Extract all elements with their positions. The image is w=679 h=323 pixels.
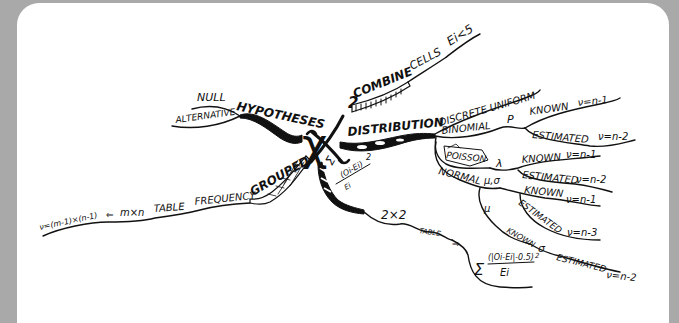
formula-denominator: Ei xyxy=(343,182,353,192)
branch-formula: Σ (Oi-Ei) 2 Ei 2×2 TABLE ⇒ Σ (|Oi-Ei|-0.… xyxy=(318,153,540,288)
poisson-estimated-label: ESTIMATED xyxy=(522,169,580,186)
yates-sum-symbol: Σ xyxy=(474,260,485,279)
normal-estimated-dof: ν=n-3 xyxy=(567,227,597,238)
two-by-two-label: 2×2 xyxy=(381,208,406,222)
poisson-estimated-dof: ν=n-2 xyxy=(576,174,606,185)
sigma-estimated-label: ESTIMATED xyxy=(556,252,608,274)
binomial-estimated-label: ESTIMATED xyxy=(532,129,590,145)
mu-label: μ xyxy=(483,203,490,214)
ei-lt-5-label: Ei<5 xyxy=(444,22,476,49)
sigma-estimated-dof: ν=n-2 xyxy=(606,269,637,283)
grouped-table-label: TABLE xyxy=(153,201,185,214)
poisson-known-label: KNOWN xyxy=(521,151,561,165)
yates-denominator: Ei xyxy=(500,267,509,278)
branch-grouped: GROUPED FREQUENCY TABLE m×n ⇐ ν=(m-1)×(n… xyxy=(39,153,312,236)
poisson-known-dof: ν=n-1 xyxy=(566,149,596,160)
normal-param: μ,σ xyxy=(483,175,501,186)
grouped-dof-label: ν=(m-1)×(n-1) xyxy=(39,211,99,232)
binomial-known-dof: ν=n-1 xyxy=(577,94,608,108)
m-by-n-label: m×n xyxy=(120,207,144,218)
normal-known-label: KNOWN xyxy=(524,184,565,199)
formula-exponent: 2 xyxy=(366,153,371,162)
implied-by-arrow: ⇐ xyxy=(106,210,114,220)
branch-combine: COMBINE CELLS Ei<5 xyxy=(351,22,480,112)
binomial-param: P xyxy=(507,113,514,126)
cells-label: CELLS xyxy=(407,45,443,72)
normal-known-dof: ν=n-1 xyxy=(566,194,596,205)
normal-estimated-label: ESTIMATED xyxy=(517,198,564,236)
poisson-param: λ xyxy=(495,157,503,170)
table-label: TABLE xyxy=(419,227,442,238)
null-label: NULL xyxy=(197,91,226,104)
frequency-label: FREQUENCY xyxy=(194,190,257,207)
yates-numerator: (|Oi-Ei|-0.5) xyxy=(488,253,534,262)
chi-symbol: χ xyxy=(302,119,327,170)
binomial-estimated-dof: ν=n-2 xyxy=(598,131,628,142)
alternative-label: ALTERNATIVE xyxy=(174,107,236,125)
yates-exponent: 2 xyxy=(535,252,540,260)
binomial-known-label: KNOWN xyxy=(529,101,570,117)
